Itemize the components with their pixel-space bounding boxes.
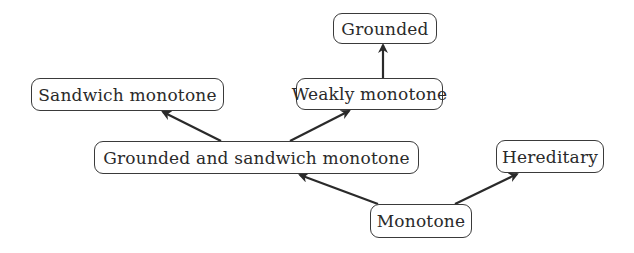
edges-layer bbox=[0, 0, 634, 253]
node-monotone: Monotone bbox=[370, 204, 472, 238]
edge-monotone-to-grounded-and-sandwich-monotone bbox=[300, 175, 378, 204]
edge-grounded-and-sandwich-monotone-to-sandwich-monotone bbox=[163, 112, 221, 141]
edge-monotone-to-hereditary bbox=[455, 174, 517, 204]
edge-grounded-and-sandwich-monotone-to-weakly-monotone bbox=[290, 111, 349, 141]
diagram-canvas: Grounded Sandwich monotone Weakly monoto… bbox=[0, 0, 634, 253]
node-sandwich-monotone: Sandwich monotone bbox=[31, 78, 224, 111]
node-weakly-monotone: Weakly monotone bbox=[296, 78, 443, 110]
node-hereditary: Hereditary bbox=[496, 140, 604, 173]
node-grounded-and-sandwich-monotone: Grounded and sandwich monotone bbox=[94, 141, 419, 174]
node-grounded: Grounded bbox=[333, 13, 437, 44]
